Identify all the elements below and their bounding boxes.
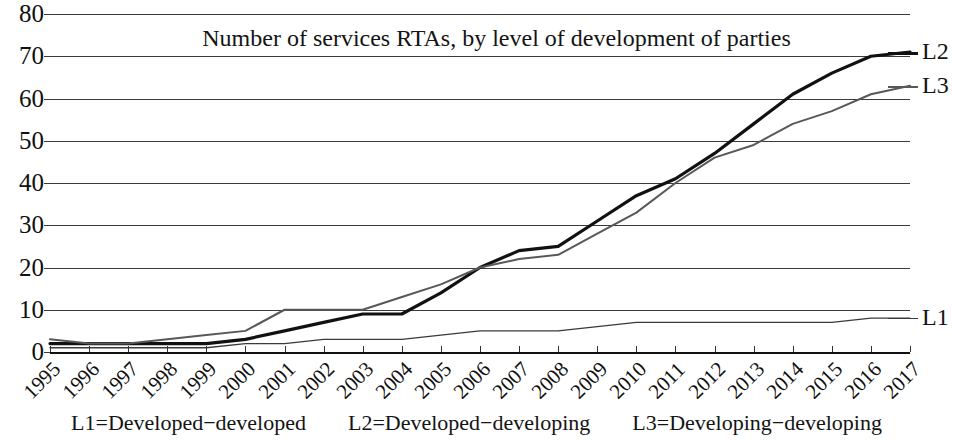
series-line-l3 xyxy=(50,86,910,344)
x-tick-mark-2008 xyxy=(558,346,559,352)
y-tick-label-50: 50 xyxy=(19,128,44,153)
series-callout-l2 xyxy=(888,52,918,55)
x-tick-mark-1999 xyxy=(206,346,207,352)
y-tick-label-40: 40 xyxy=(19,170,44,195)
x-tick-label-1997: 1997 xyxy=(98,358,143,403)
legend-entry-l3: L3=Developing−developing xyxy=(632,410,882,436)
x-tick-label-2000: 2000 xyxy=(215,358,260,403)
y-tick-label-30: 30 xyxy=(19,212,44,237)
x-tick-mark-2001 xyxy=(285,346,286,352)
x-tick-mark-2017 xyxy=(910,346,911,352)
series-line-l2 xyxy=(50,52,910,344)
x-axis-tick-labels: 1995199619971998199920002001200220032004… xyxy=(50,352,910,410)
x-tick-label-2008: 2008 xyxy=(528,358,573,403)
x-tick-label-2001: 2001 xyxy=(255,358,300,403)
x-tick-label-1996: 1996 xyxy=(59,358,104,403)
x-tick-label-2015: 2015 xyxy=(802,358,847,403)
x-tick-mark-2002 xyxy=(324,346,325,352)
series-callout-l1 xyxy=(888,318,918,319)
series-lines xyxy=(50,14,910,352)
legend-entry-l1: L1=Developed−developed xyxy=(71,410,306,436)
x-tick-mark-2011 xyxy=(675,346,676,352)
x-tick-label-1998: 1998 xyxy=(137,358,182,403)
x-tick-mark-2004 xyxy=(402,346,403,352)
x-tick-label-2011: 2011 xyxy=(645,359,689,403)
x-tick-mark-1995 xyxy=(50,346,51,352)
series-callout-l3 xyxy=(888,86,918,88)
x-tick-label-2007: 2007 xyxy=(489,358,534,403)
x-tick-label-2009: 2009 xyxy=(567,358,612,403)
x-tick-mark-2009 xyxy=(597,346,598,352)
legend-entry-l2: L2=Developed−developing xyxy=(348,410,590,436)
footer-legend: L1=Developed−developedL2=Developed−devel… xyxy=(0,410,953,436)
x-tick-mark-2000 xyxy=(245,346,246,352)
y-tick-label-10: 10 xyxy=(19,297,44,322)
x-tick-label-2003: 2003 xyxy=(333,358,378,403)
plot-area xyxy=(50,14,910,352)
x-tick-label-2002: 2002 xyxy=(294,358,339,403)
x-tick-mark-2003 xyxy=(363,346,364,352)
x-tick-mark-2006 xyxy=(480,346,481,352)
x-tick-label-2004: 2004 xyxy=(372,358,417,403)
x-tick-mark-2005 xyxy=(441,346,442,352)
y-tick-label-0: 0 xyxy=(32,339,45,364)
x-tick-label-1999: 1999 xyxy=(176,358,221,403)
x-tick-label-2012: 2012 xyxy=(685,358,730,403)
x-tick-label-2005: 2005 xyxy=(411,358,456,403)
y-tick-label-70: 70 xyxy=(19,43,44,68)
x-tick-mark-2012 xyxy=(715,346,716,352)
series-label-l1: L1 xyxy=(922,305,949,329)
chart-figure: Number of services RTAs, by level of dev… xyxy=(0,0,953,441)
x-tick-label-2013: 2013 xyxy=(724,358,769,403)
x-tick-label-2016: 2016 xyxy=(841,358,886,403)
x-tick-label-2017: 2017 xyxy=(880,358,925,403)
y-tick-label-80: 80 xyxy=(19,1,44,26)
series-label-l3: L3 xyxy=(922,73,949,97)
x-tick-label-2010: 2010 xyxy=(606,358,651,403)
series-label-l2: L2 xyxy=(922,39,949,63)
x-tick-mark-2016 xyxy=(871,346,872,352)
x-tick-mark-2013 xyxy=(754,346,755,352)
y-tick-label-20: 20 xyxy=(19,255,44,280)
x-tick-label-2006: 2006 xyxy=(450,358,495,403)
x-tick-mark-1997 xyxy=(128,346,129,352)
x-tick-mark-2010 xyxy=(636,346,637,352)
x-tick-mark-2014 xyxy=(793,346,794,352)
y-tick-label-60: 60 xyxy=(19,86,44,111)
x-tick-mark-1998 xyxy=(167,346,168,352)
x-tick-label-2014: 2014 xyxy=(763,358,808,403)
x-tick-mark-2015 xyxy=(832,346,833,352)
x-tick-mark-2007 xyxy=(519,346,520,352)
x-tick-mark-1996 xyxy=(89,346,90,352)
